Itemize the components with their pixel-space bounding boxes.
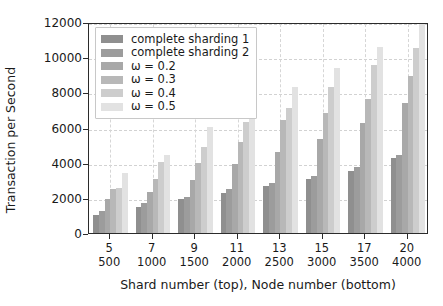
bar--0-5-group-20: [419, 23, 425, 233]
x-tick-mark-15: [322, 234, 323, 239]
y-tick-label-4000: 4000: [22, 157, 82, 171]
x-tick-mark-13: [279, 234, 280, 239]
bar--0-5-group-11: [249, 101, 255, 233]
legend-label: ω = 0.2: [131, 60, 176, 73]
bar--0-5-group-5: [122, 173, 128, 233]
legend-swatch-icon: [101, 35, 123, 43]
x-tick-label-20: 204000: [377, 241, 437, 269]
legend-label: ω = 0.5: [131, 100, 176, 113]
legend-label: ω = 0.4: [131, 87, 176, 100]
legend-swatch-icon: [101, 62, 123, 70]
bar--0-5-group-9: [207, 127, 213, 233]
legend-item-4[interactable]: ω = 0.4: [101, 87, 249, 100]
legend-swatch-icon: [101, 103, 123, 111]
legend-label: complete sharding 1: [131, 33, 249, 46]
bar--0-5-group-17: [377, 47, 383, 233]
legend-swatch-icon: [101, 76, 123, 84]
bar--0-5-group-15: [334, 68, 340, 233]
x-tick-shard-number: 20: [377, 241, 437, 255]
legend-item-1[interactable]: complete sharding 2: [101, 46, 249, 59]
x-tick-mark-9: [194, 234, 195, 239]
bar-chart-figure: Transaction per Second 02000400060008000…: [0, 0, 443, 306]
y-tick-label-0: 0: [22, 227, 82, 241]
legend-item-0[interactable]: complete sharding 1: [101, 33, 249, 46]
x-tick-node-number: 4000: [377, 255, 437, 269]
legend-label: ω = 0.3: [131, 73, 176, 86]
y-tick-label-8000: 8000: [22, 86, 82, 100]
legend-swatch-icon: [101, 49, 123, 57]
legend-swatch-icon: [101, 89, 123, 97]
legend-item-5[interactable]: ω = 0.5: [101, 100, 249, 113]
y-tick-label-10000: 10000: [22, 51, 82, 65]
x-tick-mark-11: [237, 234, 238, 239]
y-axis-title: Transaction per Second: [0, 20, 22, 260]
y-tick-label-2000: 2000: [22, 192, 82, 206]
bar--0-5-group-7: [164, 155, 170, 233]
x-tick-mark-20: [407, 234, 408, 239]
y-tick-label-12000: 12000: [22, 16, 82, 30]
chart-legend: complete sharding 1complete sharding 2ω …: [95, 27, 257, 119]
legend-item-2[interactable]: ω = 0.2: [101, 60, 249, 73]
x-tick-mark-7: [152, 234, 153, 239]
bar--0-5-group-13: [292, 87, 298, 233]
x-tick-mark-17: [364, 234, 365, 239]
y-tick-label-6000: 6000: [22, 122, 82, 136]
x-tick-mark-5: [109, 234, 110, 239]
legend-item-3[interactable]: ω = 0.3: [101, 73, 249, 86]
legend-label: complete sharding 2: [131, 46, 249, 59]
x-axis-title: Shard number (top), Node number (bottom): [88, 277, 428, 292]
y-tick-mark-0: [83, 234, 88, 235]
